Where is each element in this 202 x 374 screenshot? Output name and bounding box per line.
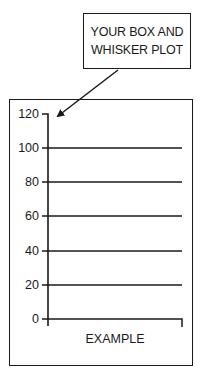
y-tick-labels: 120 100 80 60 40 20 0 (18, 107, 39, 326)
y-axis (42, 114, 48, 326)
tick-label-20: 20 (25, 278, 39, 292)
callout-arrow (58, 70, 118, 116)
tick-label-120: 120 (18, 107, 39, 121)
tick-label-40: 40 (25, 244, 39, 258)
tick-label-100: 100 (18, 141, 39, 155)
category-label: EXAMPLE (85, 332, 144, 346)
gridlines (42, 148, 182, 285)
box-plot-chart: 120 100 80 60 40 20 0 EXAMPLE (0, 0, 202, 374)
x-axis-baseline (42, 319, 182, 327)
tick-label-0: 0 (32, 312, 39, 326)
tick-label-80: 80 (25, 175, 39, 189)
tick-label-60: 60 (25, 209, 39, 223)
